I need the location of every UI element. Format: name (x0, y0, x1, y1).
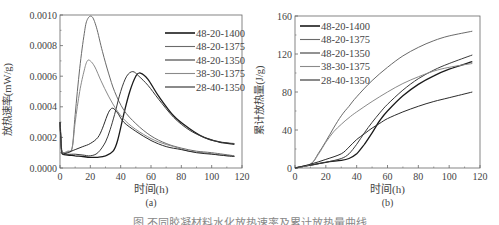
x-tick-label: 40 (352, 171, 362, 182)
legend-label: 38-30-1375 (196, 68, 245, 79)
y-tick-label: 160 (277, 11, 292, 22)
x-tick-label: 60 (383, 171, 393, 182)
legend-label: 38-30-1375 (321, 61, 370, 72)
x-tick-label: 60 (146, 171, 156, 182)
x-tick-label: 100 (442, 171, 457, 182)
x-tick-label: 20 (321, 171, 331, 182)
legend-label: 28-40-1350 (321, 75, 370, 86)
y-tick-label: 0.0002 (30, 132, 58, 143)
x-tick-label: 120 (473, 171, 488, 182)
x-tick-label: 0 (58, 171, 63, 182)
x-tick-label: 100 (204, 171, 219, 182)
figure-caption: 图 不同胶凝材料水化放热速率及累计放热量曲线 (80, 214, 420, 225)
x-tick-label: 80 (176, 171, 186, 182)
chart-b-plot: 02040608010012004080120160时间(h)(b)累计放热量(… (250, 0, 499, 210)
legend-label: 28-40-1350 (196, 82, 245, 93)
series-line-28-40-1350 (295, 92, 472, 168)
legend-label: 48-20-1400 (196, 28, 245, 39)
x-axis-label: 时间(h) (134, 183, 169, 196)
y-tick-label: 0.0010 (30, 10, 58, 21)
x-axis-label: 时间(h) (370, 183, 405, 196)
y-tick-label: 0.0004 (30, 101, 58, 112)
x-tick-label: 20 (85, 171, 95, 182)
chart-b: 02040608010012004080120160时间(h)(b)累计放热量(… (250, 0, 499, 210)
chart-a-plot: 0204060801001200.00000.00020.00040.00060… (0, 0, 250, 210)
legend-label: 48-20-1350 (321, 48, 370, 59)
x-tick-label: 120 (235, 171, 250, 182)
y-tick-label: 0.0000 (30, 163, 58, 174)
y-axis-label: 累计放热量(J/g) (253, 65, 266, 135)
x-tick-label: 0 (293, 171, 298, 182)
panel-label: (b) (382, 197, 394, 209)
legend-label: 48-20-1350 (196, 55, 245, 66)
series-line-28-40-1350 (60, 108, 234, 156)
y-tick-label: 80 (282, 87, 292, 98)
legend-label: 48-20-1375 (321, 34, 370, 45)
y-axis-label: 放热速率(mW/g) (1, 62, 14, 136)
legend-label: 48-20-1375 (196, 41, 245, 52)
panel-label: (a) (145, 197, 156, 209)
y-tick-label: 40 (282, 125, 292, 136)
y-tick-label: 0 (287, 163, 292, 174)
x-tick-label: 40 (116, 171, 126, 182)
x-tick-label: 80 (413, 171, 423, 182)
y-tick-label: 0.0006 (30, 71, 58, 82)
y-tick-label: 0.0008 (30, 40, 58, 51)
chart-a: 0204060801001200.00000.00020.00040.00060… (0, 0, 250, 210)
legend-label: 48-20-1400 (321, 21, 370, 32)
y-tick-label: 120 (277, 49, 292, 60)
